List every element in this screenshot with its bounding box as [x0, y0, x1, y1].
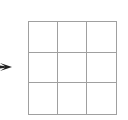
grid-cell: [87, 83, 116, 114]
arrow-right-icon: [0, 63, 12, 71]
grid-3x3: [28, 21, 117, 115]
grid-cell: [87, 22, 116, 53]
grid-cell: [29, 22, 58, 53]
grid-cell: [58, 83, 87, 114]
grid-cell: [58, 53, 87, 84]
grid-cell: [87, 53, 116, 84]
grid-cell: [29, 83, 58, 114]
grid-cell: [29, 53, 58, 84]
grid-cell: [58, 22, 87, 53]
